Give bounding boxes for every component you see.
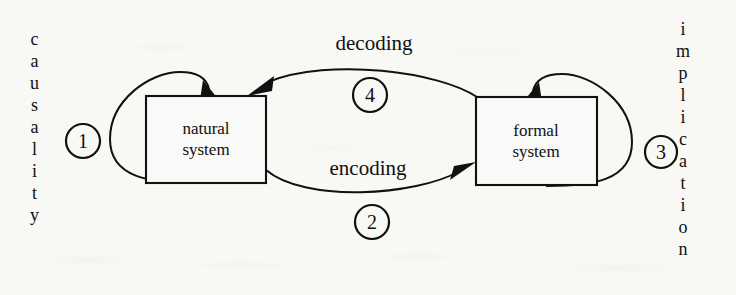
- formal-system-label-line1: formal: [513, 121, 559, 140]
- circle-3-value: 3: [656, 141, 666, 163]
- circle-2-value: 2: [367, 211, 377, 233]
- modeling-relation-diagram: natural system formal system decoding en…: [0, 0, 736, 295]
- node-natural-system[interactable]: natural system: [146, 96, 266, 183]
- implication-letter: p: [679, 62, 688, 84]
- causality-letter: u: [30, 72, 39, 94]
- natural-system-label-line1: natural: [182, 119, 229, 138]
- diagram-canvas: natural system formal system decoding en…: [0, 0, 736, 295]
- causality-letter: t: [32, 182, 37, 204]
- node-formal-system[interactable]: formal system: [476, 97, 597, 185]
- implication-letter: o: [679, 216, 688, 238]
- implication-letter: a: [679, 150, 687, 172]
- circle-1-value: 1: [78, 130, 88, 152]
- formal-system-box: [476, 97, 597, 185]
- implication-letter: t: [681, 172, 686, 194]
- implication-letter: c: [679, 128, 687, 150]
- circled-number-4: 4: [353, 78, 387, 112]
- implication-vertical-label: i m p l i c a t i o n: [676, 18, 690, 260]
- circle-4-value: 4: [365, 84, 375, 106]
- causality-letter: c: [31, 28, 39, 50]
- causality-letter: i: [32, 160, 37, 182]
- formal-system-label-line2: system: [512, 142, 559, 161]
- causality-letter: a: [31, 116, 39, 138]
- causality-letter: l: [32, 138, 37, 160]
- decoding-label: decoding: [336, 31, 413, 55]
- causality-vertical-label: c a u s a l i t y: [30, 28, 39, 226]
- circled-number-2: 2: [355, 205, 389, 239]
- causality-letter: y: [30, 204, 39, 226]
- encoding-arrowhead: [450, 162, 476, 180]
- encoding-label: encoding: [330, 156, 407, 180]
- implication-letter: i: [681, 194, 686, 216]
- implication-letter: i: [681, 106, 686, 128]
- implication-letter: l: [681, 84, 686, 106]
- implication-letter: n: [679, 238, 688, 260]
- circled-number-1: 1: [66, 124, 100, 158]
- implication-letter: i: [681, 18, 686, 40]
- decoding-arrowhead: [247, 76, 274, 96]
- causality-letter: s: [31, 94, 38, 116]
- causality-letter: a: [31, 50, 39, 72]
- implication-letter: m: [676, 40, 690, 62]
- natural-system-label-line2: system: [182, 140, 229, 159]
- circled-number-3: 3: [645, 136, 677, 168]
- decoding-arc: [247, 69, 477, 97]
